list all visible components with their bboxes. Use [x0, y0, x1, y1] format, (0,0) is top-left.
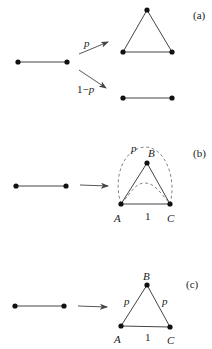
node-A-label: A — [113, 333, 121, 345]
node — [144, 7, 149, 12]
arrow — [80, 185, 108, 186]
node-B — [144, 282, 149, 287]
panel-label: (a) — [193, 9, 206, 22]
panel-c: B p p A 1 C (c) — [12, 270, 198, 346]
node — [15, 59, 20, 64]
dashed-label: p — [130, 142, 137, 154]
node-C-label: C — [167, 334, 175, 346]
node-B-label: B — [143, 270, 150, 282]
node-C — [167, 201, 172, 206]
arrow — [78, 306, 107, 307]
source-edge — [15, 59, 69, 64]
node — [63, 183, 68, 188]
node-B — [144, 160, 149, 165]
node — [12, 303, 17, 308]
edge-result — [120, 95, 174, 100]
node-A-label: A — [113, 212, 121, 224]
edge-AB-label: p — [123, 295, 130, 307]
diagram-canvas: p 1−p (a) — [0, 0, 212, 349]
source-edge — [12, 303, 66, 308]
edge-AC-label: 1 — [145, 210, 151, 222]
node — [13, 183, 18, 188]
branch-upper-label: p — [83, 37, 90, 49]
node — [61, 303, 66, 308]
triangle-result — [120, 7, 174, 54]
node — [64, 59, 69, 64]
panel-label: (c) — [186, 278, 199, 291]
panel-label: (b) — [193, 147, 206, 160]
panel-b: p B A 1 C (b) — [13, 142, 206, 224]
source-edge — [13, 183, 68, 188]
node-C — [167, 324, 172, 329]
edge-AC-label: 1 — [145, 331, 151, 343]
node — [120, 95, 125, 100]
branch-lower-label: 1−p — [77, 83, 95, 95]
node — [169, 95, 174, 100]
panel-a: p 1−p (a) — [15, 7, 205, 100]
node-C-label: C — [167, 212, 175, 224]
node — [169, 49, 174, 54]
node-A — [118, 201, 123, 206]
edge-BC-label: p — [161, 295, 168, 307]
triangle — [118, 160, 172, 206]
node-A — [118, 323, 123, 328]
node-B-label: B — [148, 147, 155, 159]
node — [120, 49, 125, 54]
